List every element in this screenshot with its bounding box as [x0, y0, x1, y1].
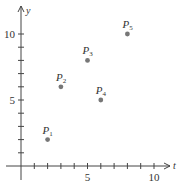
- point-marker: [85, 58, 90, 63]
- data-point: P1: [42, 124, 54, 142]
- point-label: P4: [95, 84, 107, 98]
- point-label-subscript: 2: [63, 77, 67, 85]
- point-marker: [45, 137, 50, 142]
- data-point: P2: [55, 71, 67, 89]
- point-marker: [125, 32, 130, 37]
- data-points: P1P2P3P4P5: [42, 18, 134, 142]
- point-label: P3: [82, 44, 94, 58]
- data-point: P4: [95, 84, 107, 102]
- point-marker: [59, 84, 64, 89]
- data-point: P3: [82, 44, 94, 62]
- point-marker: [98, 98, 103, 103]
- axes: ty: [6, 5, 176, 180]
- point-label: P1: [42, 124, 54, 138]
- y-axis-label: y: [25, 5, 31, 16]
- data-point: P5: [121, 18, 133, 36]
- x-tick-label: 10: [149, 171, 161, 183]
- point-label-subscript: 3: [89, 50, 93, 58]
- y-tick-label: 10: [4, 28, 16, 40]
- x-axis-label: t: [173, 160, 176, 171]
- point-label-subscript: 4: [103, 90, 107, 98]
- y-tick-label: 5: [10, 94, 16, 106]
- scatter-chart: ty 510510 P1P2P3P4P5: [0, 0, 178, 186]
- point-label-subscript: 5: [129, 24, 133, 32]
- x-tick-label: 5: [85, 171, 91, 183]
- point-label: P5: [121, 18, 133, 32]
- point-label-subscript: 1: [49, 130, 53, 138]
- point-label: P2: [55, 71, 67, 85]
